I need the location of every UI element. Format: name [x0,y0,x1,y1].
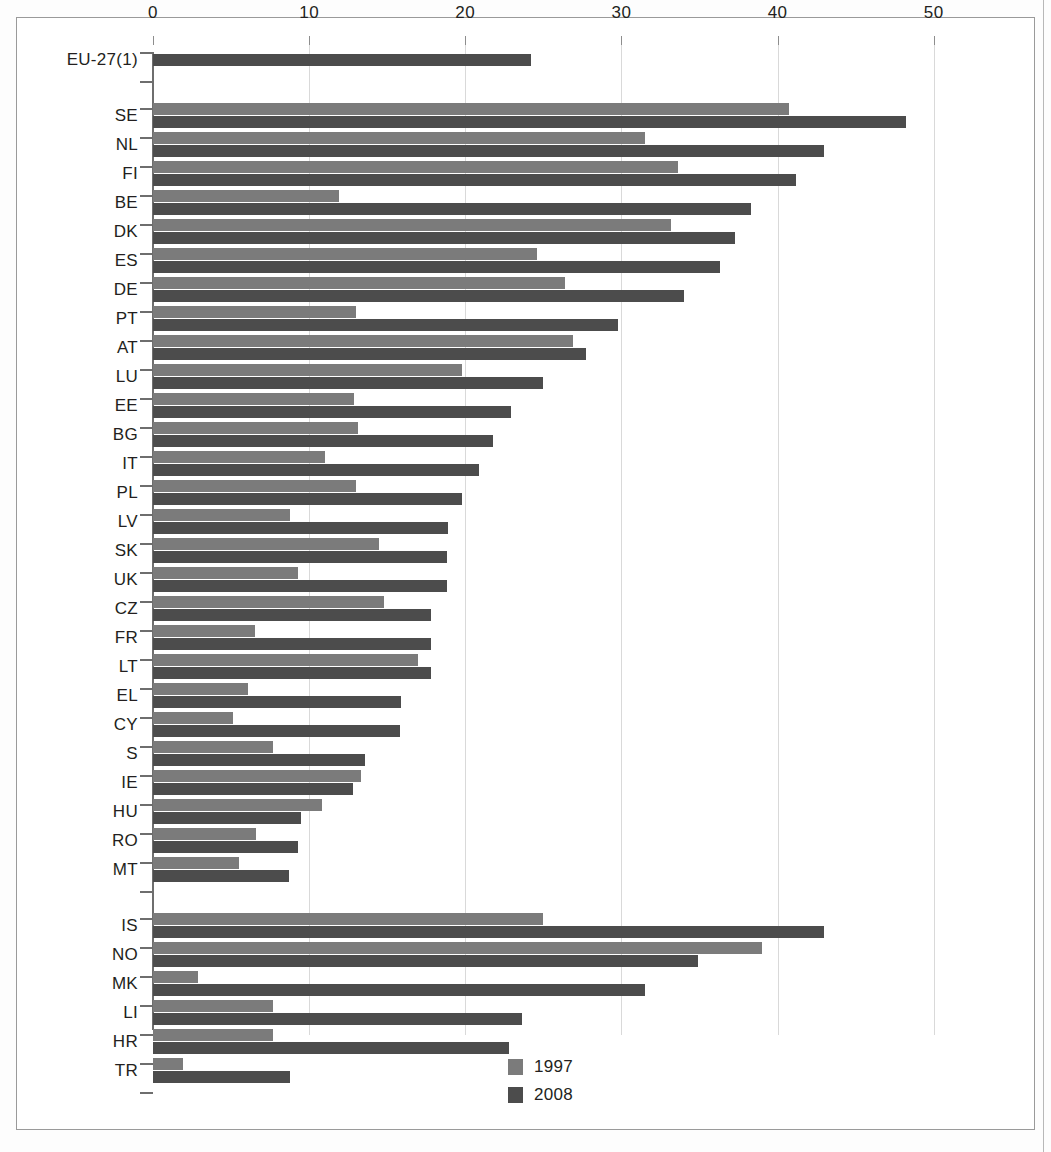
chart-bar [153,1071,290,1083]
category-label: LI [0,1003,138,1023]
category-label: BG [0,425,138,445]
y-axis-tick [140,1005,153,1007]
chart-bar [153,580,447,592]
category-label: S [0,744,138,764]
legend-swatch-icon [508,1087,523,1103]
category-label: EE [0,396,138,416]
chart-bar [153,174,796,186]
chart-bar [153,54,531,66]
y-axis-tick [140,253,153,255]
y-axis-tick [140,601,153,603]
category-label: DE [0,280,138,300]
category-label: BE [0,193,138,213]
chart-bar [153,596,384,608]
y-axis-tick [140,775,153,777]
y-axis-tick [140,630,153,632]
chart-bar [153,828,256,840]
chart-bar [153,277,565,289]
category-label: FR [0,628,138,648]
y-axis-tick [140,398,153,400]
y-axis-tick [140,659,153,661]
y-axis-tick [140,137,153,139]
chart-bar [153,161,678,173]
y-axis-tick [140,224,153,226]
category-label: IT [0,454,138,474]
y-axis-tick [140,976,153,978]
y-axis-tick [140,572,153,574]
chart-bar [153,335,573,347]
y-axis-tick [140,717,153,719]
x-axis-tick [309,36,310,45]
chart-bar [153,116,906,128]
category-label: UK [0,570,138,590]
chart-bar [153,132,645,144]
chart-bar [153,638,431,650]
category-label: MK [0,974,138,994]
page-right-rule [1043,0,1044,1152]
category-label: RO [0,831,138,851]
y-axis-tick [140,369,153,371]
chart-bar [153,971,198,983]
chart-bar [153,319,618,331]
chart-bar [153,683,248,695]
y-axis-tick [140,195,153,197]
chart-bar [153,232,735,244]
x-axis-tick-label: 40 [748,3,808,23]
x-gridline [621,45,622,1035]
legend-label: 1997 [534,1057,573,1077]
chart-legend: 19972008 [508,1053,573,1109]
y-axis-tick [140,833,153,835]
category-label: PL [0,483,138,503]
y-axis-tick [140,1034,153,1036]
x-axis-tick-label: 30 [591,3,651,23]
category-label: CZ [0,599,138,619]
y-axis-tick [140,543,153,545]
legend-label: 2008 [534,1085,573,1105]
chart-bar [153,522,448,534]
x-axis-tick-label: 10 [279,3,339,23]
y-axis-tick [140,1063,153,1065]
chart-bar [153,261,720,273]
y-axis-tick [140,947,153,949]
chart-bar [153,1013,522,1025]
chart-bar [153,926,824,938]
category-label: EL [0,686,138,706]
x-axis-tick-label: 20 [435,3,495,23]
x-gridline [465,45,466,1035]
category-label: MT [0,860,138,880]
chart-bar [153,857,239,869]
y-axis-tick [140,918,153,920]
category-label: NL [0,135,138,155]
chart-bar [153,667,431,679]
category-label: CY [0,715,138,735]
y-axis-tick [140,746,153,748]
x-axis-tick [465,36,466,45]
chart-bar [153,725,400,737]
x-axis-tick-label: 0 [123,3,183,23]
chart-bar [153,538,379,550]
x-axis-tick [621,36,622,45]
x-axis-tick [153,36,154,45]
chart-bar [153,464,479,476]
category-label: DK [0,222,138,242]
chart-bar [153,799,322,811]
y-axis-tick [140,311,153,313]
chart-bar [153,942,762,954]
chart-bar [153,955,698,967]
chart-bar [153,406,511,418]
chart-bar [153,567,298,579]
chart-bar [153,451,325,463]
chart-bar [153,248,537,260]
y-axis-tick [140,427,153,429]
y-axis-tick [140,862,153,864]
plot-area: 01020304050 [153,45,965,1035]
chart-bar [153,190,339,202]
chart-bar [153,712,233,724]
category-label: IE [0,773,138,793]
y-axis-tick [140,81,153,83]
category-label: HR [0,1032,138,1052]
chart-page: EU-27(1)SENLFIBEDKESDEPTATLUEEBGITPLLVSK… [0,0,1051,1152]
chart-bar [153,509,290,521]
chart-bar [153,493,462,505]
chart-bar [153,290,684,302]
